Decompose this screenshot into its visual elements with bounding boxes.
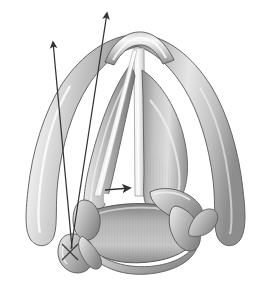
illustration-canvas — [0, 0, 273, 286]
anatomical-figure: Anatomical line illustration Larynx view… — [0, 0, 273, 286]
